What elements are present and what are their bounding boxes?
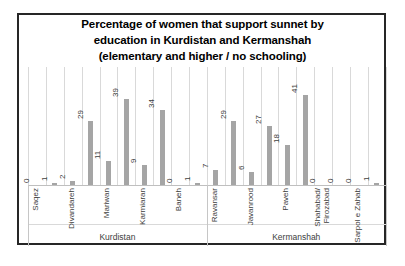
bar-value-label: 18: [272, 117, 282, 143]
bar-value-label: 0: [308, 157, 318, 183]
bar: [249, 172, 254, 185]
bar-value-label: 9: [129, 137, 139, 163]
plot-gridline: [225, 67, 226, 185]
bar-value-label: 7: [201, 142, 211, 168]
axis-group-tick: [207, 185, 208, 246]
bar-value-label: 1: [362, 155, 372, 181]
bar-value-label: 34: [147, 82, 157, 108]
bar-value-label: 27: [254, 98, 264, 124]
x-axis-group-label: Kermanshah: [236, 231, 356, 243]
x-axis-city-label: Ravansar: [210, 188, 220, 250]
chart-title: Percentage of women that support sunnet …: [27, 16, 378, 64]
plot-gridline: [100, 67, 101, 185]
bar: [213, 170, 218, 185]
chart-title-line-1: Percentage of women that support sunnet …: [27, 16, 378, 32]
bar-value-label: 41: [290, 67, 300, 93]
bar: [160, 110, 165, 185]
axis-group-tick: [386, 185, 387, 246]
bar-value-label: 2: [58, 153, 68, 179]
x-axis-group-label: Kurdistan: [57, 231, 177, 243]
bar: [106, 161, 111, 185]
bar: [285, 145, 290, 185]
plot-gridline: [261, 67, 262, 185]
axis-group-tick: [28, 185, 29, 246]
bar-value-label: 0: [326, 157, 336, 183]
bar-value-label: 29: [76, 93, 86, 119]
bar-value-label: 6: [237, 144, 247, 170]
bar: [142, 165, 147, 185]
chart-title-line-2: education in Kurdistan and Kermanshah: [27, 32, 378, 48]
bar-value-label: 1: [183, 155, 193, 181]
bar-value-label: 29: [219, 93, 229, 119]
bar-value-label: 39: [111, 71, 121, 97]
chart-title-line-3: (elementary and higher / no schooling): [27, 48, 378, 64]
bar: [195, 183, 200, 185]
bar-value-label: 0: [344, 157, 354, 183]
plot-gridline: [135, 67, 136, 185]
plot-gridline: [386, 67, 387, 185]
bar: [52, 183, 57, 185]
plot-gridline: [82, 67, 83, 185]
bar: [374, 183, 379, 185]
x-axis-city-label: Saqez: [31, 188, 41, 250]
bar: [231, 121, 236, 185]
bar-value-label: 0: [165, 157, 175, 183]
bar-value-label: 0: [22, 157, 32, 183]
bar-value-label: 11: [93, 133, 103, 159]
chart-canvas: Percentage of women that support sunnet …: [0, 0, 405, 266]
bar: [70, 181, 75, 185]
bar: [303, 95, 308, 185]
bar-value-label: 1: [40, 155, 50, 181]
